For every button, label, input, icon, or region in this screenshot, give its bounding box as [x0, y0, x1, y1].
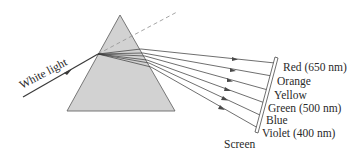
- arrow-orange-icon: [230, 68, 236, 72]
- screen-label: Screen: [224, 138, 256, 150]
- spectrum-label-blue: Blue: [266, 114, 288, 126]
- ray-orange: [143, 53, 272, 76]
- ray-arrows: [218, 57, 238, 110]
- prism-dispersion-diagram: White light Red (650 nm) Orange Yellow G…: [0, 0, 364, 157]
- spectrum-label-yellow: Yellow: [274, 89, 307, 101]
- spectrum-label-red: Red (650 nm): [283, 61, 347, 74]
- spectrum-label-orange: Orange: [277, 75, 311, 88]
- arrow-blue-icon: [221, 96, 228, 101]
- spectrum-label-violet: Violet (400 nm): [262, 127, 336, 140]
- white-light-label: White light: [17, 55, 70, 91]
- ray-yellow: [145, 56, 268, 90]
- incident-arrow-icon: [64, 69, 72, 75]
- arrow-green-icon: [224, 87, 231, 91]
